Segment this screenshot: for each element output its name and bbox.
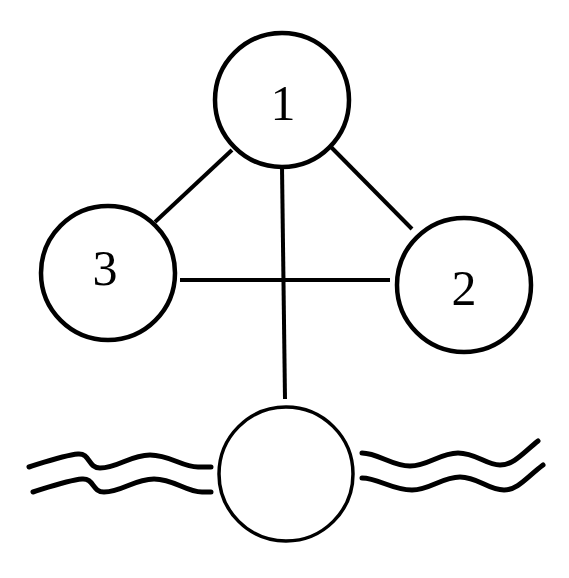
diagram-canvas: 1 2 3	[0, 0, 569, 578]
edge-1-2	[330, 146, 412, 229]
membrane-node-circle	[219, 407, 353, 541]
edge-1-membrane	[282, 167, 285, 399]
edge-1-3	[155, 150, 232, 222]
membrane-line-right-upper	[362, 441, 538, 466]
node-3-label: 3	[93, 240, 118, 296]
membrane-line-left-upper	[29, 454, 211, 468]
node-1-label: 1	[271, 75, 296, 131]
membrane-line-right-lower	[362, 465, 543, 490]
membrane-line-left-lower	[33, 479, 211, 492]
node-2-label: 2	[452, 260, 477, 316]
